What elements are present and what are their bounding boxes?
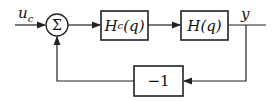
plant-block: H(q) — [181, 11, 228, 40]
feedback-path-out — [57, 37, 134, 81]
input-label: uc — [18, 6, 33, 24]
output-label: y — [241, 7, 249, 22]
controller-block: Hc(q) — [101, 11, 148, 40]
feedback-block: −1 — [134, 66, 183, 96]
summing-junction-symbol: Σ — [46, 14, 68, 36]
